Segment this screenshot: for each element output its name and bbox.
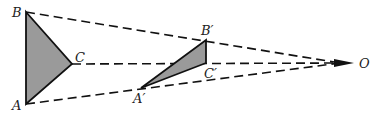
homothety-diagram: B C A B′ C′ A′ O xyxy=(0,0,383,114)
label-A-prime: A′ xyxy=(132,91,145,106)
label-C: C xyxy=(75,50,85,65)
triangle-ABC xyxy=(26,12,72,104)
label-O: O xyxy=(359,56,370,71)
label-B-prime: B′ xyxy=(200,23,214,38)
label-A: A xyxy=(11,98,21,113)
label-B: B xyxy=(11,5,22,20)
ray-B-O xyxy=(26,12,340,63)
arrow-head-icon xyxy=(334,59,354,67)
label-C-prime: C′ xyxy=(204,66,217,81)
